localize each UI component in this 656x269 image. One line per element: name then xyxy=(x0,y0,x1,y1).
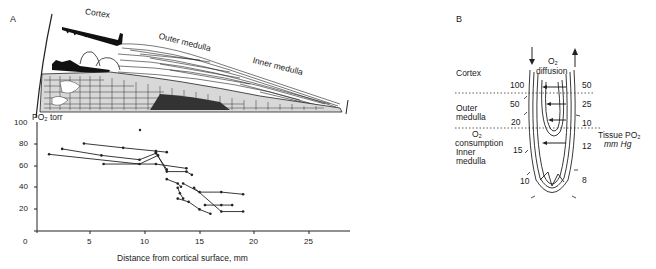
descending-po2-50: 50 xyxy=(510,100,519,109)
diffusion-label-1: O₂ xyxy=(548,57,558,66)
descending-po2-20: 20 xyxy=(511,118,520,127)
ascending-po2-25: 25 xyxy=(582,100,591,109)
ascending-po2-12: 12 xyxy=(582,142,591,151)
descending-po2-10: 10 xyxy=(520,177,529,186)
zone-inner-2: medulla xyxy=(456,157,486,166)
vasa-recta-loop-diagram xyxy=(0,0,656,269)
zone-cortex: Cortex xyxy=(456,69,481,78)
ascending-po2-50: 50 xyxy=(582,81,591,90)
ascending-po2-10: 10 xyxy=(582,119,591,128)
ascending-po2-8: 8 xyxy=(582,176,587,185)
descending-po2-100: 100 xyxy=(510,81,524,90)
tissue-po2-unit: mm Hg xyxy=(604,140,631,149)
diffusion-label-2: diffusion xyxy=(536,67,568,76)
zone-outer-2: medulla xyxy=(456,113,486,122)
descending-po2-15: 15 xyxy=(513,146,522,155)
